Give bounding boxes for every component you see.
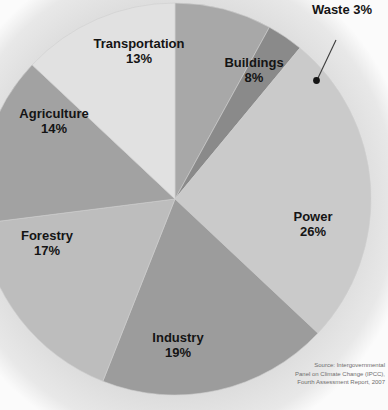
pie-label-agriculture-value: 14% xyxy=(0,121,112,136)
pie-label-agriculture: Agriculture 14% xyxy=(0,106,112,136)
pie-label-power: Power 26% xyxy=(276,209,350,239)
chart-page: arbon of r react to form xyxy=(0,0,388,410)
pie-label-buildings: Buildings 8% xyxy=(206,55,302,85)
pie-label-waste: Waste 3% xyxy=(300,2,384,17)
pie-label-power-value: 26% xyxy=(276,224,350,239)
source-credit: Source: Intergovernmental Panel on Clima… xyxy=(277,361,385,387)
pie-label-forestry-value: 17% xyxy=(0,243,100,258)
pie-label-transportation-value: 13% xyxy=(64,51,214,66)
source-credit-line-2: Panel on Climate Change (IPCC), xyxy=(277,370,385,379)
source-credit-line-1: Source: Intergovernmental xyxy=(277,361,385,370)
pie-label-forestry-name: Forestry xyxy=(21,228,73,243)
pie-label-agriculture-name: Agriculture xyxy=(19,106,88,121)
pie-label-industry-name: Industry xyxy=(152,330,203,345)
pie-label-transportation-name: Transportation xyxy=(93,36,184,51)
pie-label-power-name: Power xyxy=(293,209,332,224)
source-credit-line-3: Fourth Assessment Report, 2007 xyxy=(277,378,385,387)
pie-label-industry-value: 19% xyxy=(120,345,236,360)
pie-label-buildings-value: 8% xyxy=(206,70,302,85)
pie-label-industry: Industry 19% xyxy=(120,330,236,360)
pie-label-waste-value: 3% xyxy=(353,2,372,17)
pie-label-forestry: Forestry 17% xyxy=(0,228,100,258)
pie-label-buildings-name: Buildings xyxy=(224,55,283,70)
pie-label-waste-name: Waste xyxy=(312,2,350,17)
pie-label-transportation: Transportation 13% xyxy=(64,36,214,66)
